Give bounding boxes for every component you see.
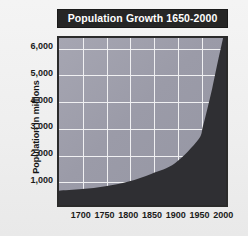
y-tick-label: 1,000 xyxy=(5,176,53,185)
y-tick-label: 6,000 xyxy=(5,42,53,51)
plot-inner xyxy=(59,38,226,205)
y-tick-label: 2,000 xyxy=(5,149,53,158)
y-tick-label: 4,000 xyxy=(5,96,53,105)
page-title: Population Growth 1650-2000 xyxy=(68,13,218,24)
y-tick-label: 3,000 xyxy=(5,122,53,131)
x-tick-label: 2000 xyxy=(203,211,243,220)
chart-figure: Population Growth 1650-2000 Population i… xyxy=(0,0,248,236)
plot-area xyxy=(57,36,228,207)
area-series xyxy=(59,38,226,205)
y-axis-tick-labels: 6,0005,0004,0003,0002,0001,000 xyxy=(5,36,53,207)
chart-title-bar: Population Growth 1650-2000 xyxy=(57,9,228,28)
x-axis-tick-labels: 1700175018001850190019502000 xyxy=(57,211,228,225)
area-path xyxy=(59,38,226,205)
y-tick-label: 5,000 xyxy=(5,69,53,78)
